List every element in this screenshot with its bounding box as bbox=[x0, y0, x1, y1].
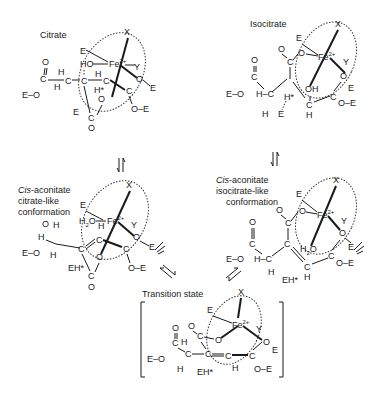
ligand-y: Y bbox=[134, 62, 140, 72]
fe-x-bond bbox=[310, 30, 338, 86]
atom-c: C bbox=[251, 72, 258, 82]
ligand-y: Y bbox=[341, 216, 347, 226]
atom-c: C bbox=[197, 331, 204, 341]
atom-o: O bbox=[339, 228, 346, 238]
atom-c: C bbox=[88, 113, 95, 123]
atom-c: C bbox=[172, 338, 179, 348]
atom-o: O bbox=[298, 48, 305, 58]
atom-eo: E–O bbox=[226, 89, 244, 99]
atom-o: O bbox=[215, 335, 222, 345]
atom-hstar: H* bbox=[284, 92, 294, 102]
atom-o: O bbox=[42, 219, 49, 229]
atom-h: H bbox=[95, 69, 102, 79]
atom-ho: HO bbox=[80, 59, 94, 69]
right-bracket bbox=[279, 302, 283, 377]
equilibrium-arrow-left bbox=[117, 158, 125, 172]
atom-c: C bbox=[285, 218, 292, 228]
atom-c: C bbox=[330, 92, 337, 102]
ligand-y: Y bbox=[343, 57, 349, 67]
atom-c: C bbox=[126, 86, 133, 96]
ligand-y: Y bbox=[256, 324, 262, 334]
structure-isocitrate: Isocitrate X E O Fe2+ Y O E OH O C O C E… bbox=[226, 12, 368, 120]
atom-c: C bbox=[78, 244, 85, 254]
atom-o: O bbox=[133, 232, 140, 242]
atom-c: C bbox=[306, 100, 313, 110]
ligand-x: X bbox=[238, 287, 244, 297]
atom-ehstar: EH* bbox=[282, 275, 299, 285]
atom-c: C bbox=[225, 351, 232, 361]
enzyme-hatch bbox=[354, 242, 364, 254]
atom-h: H bbox=[181, 337, 188, 347]
atom-h: H bbox=[306, 110, 313, 120]
atom-c: C bbox=[40, 74, 47, 84]
atom-e: E bbox=[348, 83, 354, 93]
atom-o: O bbox=[42, 57, 49, 67]
atom-c: C bbox=[103, 76, 110, 86]
ligand-e: E bbox=[80, 200, 86, 210]
ligand-e: E bbox=[207, 305, 213, 315]
atom-e: E bbox=[278, 109, 284, 119]
atom-h: H bbox=[53, 220, 60, 230]
atom-oe: O–E bbox=[128, 263, 146, 273]
atom-o: O bbox=[249, 217, 256, 227]
atom-hc: H–C bbox=[254, 254, 273, 264]
conformation-subtitle: conformation bbox=[226, 197, 278, 207]
atom-o: O bbox=[98, 94, 105, 104]
atom-o: O bbox=[276, 205, 283, 215]
ligand-y: Y bbox=[131, 220, 137, 230]
transition-state-title: Transition state bbox=[142, 289, 203, 299]
atom-h: H bbox=[304, 272, 311, 282]
structure-cis-aconitate-citrate-like: Cis-aconitate citrate-like conformation … bbox=[18, 169, 162, 292]
atom-o: O bbox=[340, 71, 347, 81]
atom-o: O bbox=[251, 55, 258, 65]
conformation-subtitle: conformation bbox=[18, 207, 70, 217]
atom-c: C bbox=[96, 235, 103, 245]
atom-c: C bbox=[249, 239, 256, 249]
atom-oe: O–E bbox=[338, 98, 356, 108]
atom-eo: E–O bbox=[22, 90, 40, 100]
atom-c: C bbox=[249, 351, 256, 361]
equilibrium-arrow-right bbox=[271, 152, 279, 166]
atom-eo: E–O bbox=[22, 248, 40, 258]
atom-o: O bbox=[136, 74, 143, 84]
structure-cis-aconitate-isocitrate-like: Cis-aconitate isocitrate-like conformati… bbox=[216, 168, 368, 285]
atom-o: O bbox=[88, 123, 95, 133]
isocitrate-like-subtitle: isocitrate-like bbox=[216, 186, 269, 196]
ligand-e: E bbox=[296, 33, 302, 43]
atom-o: O bbox=[188, 321, 195, 331]
atom-o: O bbox=[263, 337, 270, 347]
isocitrate-title: Isocitrate bbox=[250, 19, 287, 29]
atom-c: C bbox=[123, 244, 130, 254]
atom-c: C bbox=[185, 349, 192, 359]
atom-o: O bbox=[88, 282, 95, 292]
structure-citrate: Citrate X E HO Fe2+ Y O E O C E–O H H C … bbox=[22, 21, 159, 133]
cis-aconitate-title: Cis-aconitate bbox=[18, 185, 71, 195]
atom-o: O bbox=[96, 252, 103, 262]
atom-eo: E–O bbox=[147, 354, 165, 364]
citrate-like-subtitle: citrate-like bbox=[18, 196, 59, 206]
atom-c: C bbox=[88, 271, 95, 281]
atom-c: C bbox=[328, 251, 335, 261]
atom-h: H bbox=[177, 364, 184, 374]
atom-hc: H–C bbox=[256, 89, 275, 99]
citrate-title: Citrate bbox=[40, 30, 67, 40]
ligand-x: X bbox=[124, 27, 130, 37]
atom-c: C bbox=[287, 57, 294, 67]
ligand-e: E bbox=[296, 189, 302, 199]
structure-transition-state: Transition state X E Fe2+ Y O E O C E–O … bbox=[141, 287, 283, 377]
equilibrium-arrow-diagonal-left bbox=[160, 265, 175, 278]
atom-e: E bbox=[73, 107, 79, 117]
atom-eo: E–O bbox=[226, 254, 244, 264]
aconitase-mechanism-diagram: Citrate X E HO Fe2+ Y O E O C E–O H H C … bbox=[0, 0, 383, 398]
atom-o: O bbox=[172, 323, 179, 333]
cis-aconitate-title: Cis-aconitate bbox=[216, 175, 269, 185]
atom-oe: O–E bbox=[254, 364, 272, 374]
ligand-e: E bbox=[80, 46, 86, 56]
atom-c: C bbox=[284, 239, 291, 249]
atom-e: E bbox=[348, 242, 354, 252]
atom-e: E bbox=[150, 83, 156, 93]
ligand-x: X bbox=[335, 19, 341, 29]
atom-e: E bbox=[149, 242, 155, 252]
ligand-x: X bbox=[333, 175, 339, 185]
atom-c: C bbox=[81, 76, 88, 86]
